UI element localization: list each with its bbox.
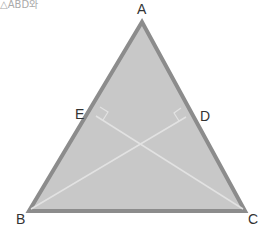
vertex-label-a: A <box>137 1 147 17</box>
triangle-abc <box>29 22 245 211</box>
triangle-diagram: A B C D E <box>0 0 259 228</box>
vertex-label-e: E <box>75 106 84 122</box>
vertex-label-c: C <box>248 211 258 227</box>
vertex-label-d: D <box>200 108 210 124</box>
vertex-label-b: B <box>16 211 25 227</box>
